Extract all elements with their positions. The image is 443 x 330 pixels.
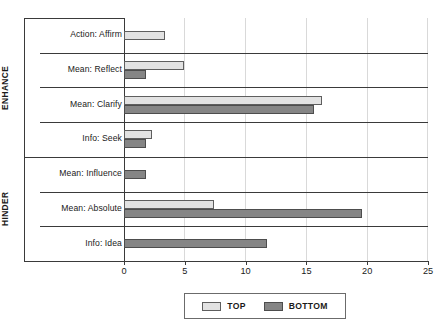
category-rows: Action: AffirmMean: ReflectMean: Clarify… xyxy=(24,18,428,261)
x-tick xyxy=(124,261,125,265)
bar-top xyxy=(124,96,322,105)
x-tick xyxy=(246,261,247,265)
x-tick-label: 0 xyxy=(109,266,139,276)
chart-row: Action: Affirm xyxy=(24,18,428,53)
bar-bottom xyxy=(124,170,146,179)
bar-top xyxy=(124,61,184,70)
group-label-hinder: HINDER xyxy=(0,157,18,261)
x-tick xyxy=(367,261,368,265)
bar-bottom xyxy=(124,239,267,248)
x-tick-label: 25 xyxy=(413,266,443,276)
x-tick xyxy=(306,261,307,265)
x-tick-label: 20 xyxy=(352,266,382,276)
chart-row: Mean: Clarify xyxy=(24,87,428,122)
x-tick-label: 15 xyxy=(291,266,321,276)
bar-chart: Action: AffirmMean: ReflectMean: Clarify… xyxy=(0,0,443,330)
x-tick-label: 5 xyxy=(170,266,200,276)
legend-swatch-top-icon xyxy=(202,302,221,311)
bar-top xyxy=(124,130,152,139)
bar-bottom xyxy=(124,70,146,79)
chart-row: Info: Idea xyxy=(24,226,428,261)
group-label-enhance: ENHANCE xyxy=(0,18,18,157)
category-label: Action: Affirm xyxy=(70,29,122,39)
legend-item-top: TOP xyxy=(202,301,245,311)
x-tick xyxy=(428,261,429,265)
bar-bottom xyxy=(124,139,146,148)
x-tick xyxy=(185,261,186,265)
category-label: Mean: Clarify xyxy=(70,99,122,109)
category-label: Mean: Influence xyxy=(59,168,122,178)
legend-label-bottom: BOTTOM xyxy=(289,301,328,311)
category-label: Info: Idea xyxy=(85,238,122,248)
category-label: Mean: Absolute xyxy=(61,203,122,213)
chart-row: Mean: Influence xyxy=(24,157,428,192)
chart-legend: TOP BOTTOM xyxy=(184,293,346,319)
bar-bottom xyxy=(124,105,314,114)
x-tick-label: 10 xyxy=(231,266,261,276)
category-label: Mean: Reflect xyxy=(68,64,122,74)
bar-bottom xyxy=(124,209,362,218)
bar-top xyxy=(124,31,165,40)
legend-label-top: TOP xyxy=(227,301,245,311)
bar-top xyxy=(124,200,214,209)
chart-row: Info: Seek xyxy=(24,122,428,157)
category-label: Info: Seek xyxy=(82,133,122,143)
legend-swatch-bottom-icon xyxy=(264,302,283,311)
legend-item-bottom: BOTTOM xyxy=(264,301,328,311)
chart-row: Mean: Reflect xyxy=(24,53,428,88)
chart-row: Mean: Absolute xyxy=(24,192,428,227)
